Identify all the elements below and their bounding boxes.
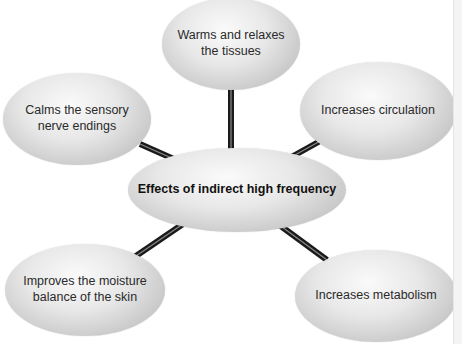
page-edge-strip (453, 0, 462, 344)
node-calms-sensory-nerve-endings: Calms the sensory nerve endings (3, 73, 151, 165)
connector-bottom-left (133, 224, 183, 258)
node-increases-circulation: Increases circulation (300, 62, 456, 160)
node-improves-moisture-balance: Improves the moisture balance of the ski… (5, 244, 165, 336)
node-label-line1: Warms and relaxes (177, 28, 284, 44)
node-label-line1: Increases metabolism (315, 288, 437, 304)
node-warms-relaxes-tissues: Warms and relaxes the tissues (162, 0, 300, 90)
node-label-line2: balance of the skin (23, 290, 147, 306)
center-label: Effects of indirect high frequency (138, 182, 337, 198)
node-label-line1: Increases circulation (321, 103, 435, 119)
node-label-line2: the tissues (177, 44, 284, 60)
node-label-line2: nerve endings (25, 119, 129, 135)
connector-bottom-right (278, 224, 327, 260)
node-center-effects-indirect-high-frequency: Effects of indirect high frequency (128, 148, 346, 232)
node-label-line1: Calms the sensory (25, 103, 129, 119)
diagram-canvas: Warms and relaxes the tissues Calms the … (0, 0, 462, 344)
node-label-line1: Improves the moisture (23, 274, 147, 290)
node-increases-metabolism: Increases metabolism (295, 250, 457, 342)
